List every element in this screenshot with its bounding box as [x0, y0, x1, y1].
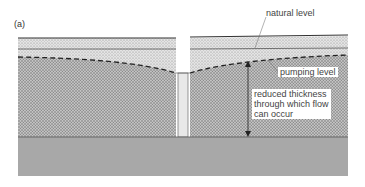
well-open-bore — [176, 30, 190, 73]
panel-label: (a) — [14, 19, 25, 29]
pumping-level-label: pumping level — [278, 67, 338, 77]
well — [176, 30, 190, 137]
well-casing — [178, 73, 188, 137]
reduced-thickness-label: reduced thickness through which flow can… — [252, 89, 331, 119]
impermeable-bedrock — [18, 137, 348, 176]
reduced-thickness-line-2: through which flow — [254, 99, 329, 109]
natural-level-label: natural level — [266, 8, 315, 18]
reduced-thickness-line-1: reduced thickness — [254, 89, 329, 99]
reduced-thickness-line-3: can occur — [254, 109, 293, 119]
groundwater-drawdown-diagram: (a) natural level pumping level reduced … — [0, 0, 365, 187]
